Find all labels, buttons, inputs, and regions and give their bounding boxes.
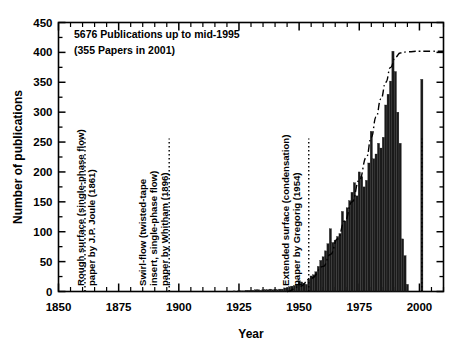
bar [281,289,283,291]
bar [250,290,252,291]
bar [382,137,384,291]
x-tick-label: 1925 [226,301,252,313]
y-tick-label: 50 [40,256,53,268]
bar [329,229,331,292]
bar [387,94,389,291]
bar [365,180,367,291]
y-tick-label: 300 [33,106,52,118]
y-tick-label: 0 [46,286,52,298]
x-tick-label: 1875 [106,301,132,313]
bar [272,290,274,292]
annotation-total-publications: 5676 Publications up to mid-1995 [74,28,240,40]
marker-label-gregorig-line1: Extended surface (condensation) [280,135,291,286]
x-tick-label: 1850 [46,301,72,313]
publications-per-year-chart: 050100150200250300350400450 185018751900… [0,0,459,347]
bar [264,290,266,292]
bar [274,289,276,291]
y-tick-label: 250 [33,136,52,148]
y-tick-label: 350 [33,76,52,88]
bar [353,183,355,292]
y-tick-label: 100 [33,226,52,238]
bar [401,239,403,292]
bar [269,289,271,291]
bar [399,143,401,291]
bar [276,290,278,292]
bar [375,154,377,291]
bar [404,256,406,292]
bar [341,211,343,291]
y-axis-title: Number of publications [11,90,25,224]
bar [351,192,353,291]
x-tick-label: 1900 [166,301,192,313]
y-tick-label: 400 [33,46,52,58]
x-axis-title: Year [238,327,264,341]
chart-canvas: 050100150200250300350400450 185018751900… [0,0,459,347]
bar [358,172,360,292]
bar [255,290,257,292]
bar [385,105,387,292]
bar [368,163,370,292]
bar [233,291,235,292]
marker-label-whitham-line2: insert, single-phase flow) [148,171,159,286]
bar [284,288,286,292]
bar [262,290,264,292]
bar [332,242,334,291]
bar [363,187,365,292]
bar [240,291,242,292]
bar [247,290,249,291]
bar [260,290,262,291]
bar [337,237,339,292]
y-tick-label: 450 [33,17,52,29]
marker-label-gregorig-line2: paper by Gregorig (1954) [291,172,302,286]
bar [339,234,341,292]
bar [380,148,382,291]
bar [267,290,269,292]
bar [361,177,363,292]
bar [377,143,379,291]
bar [238,290,240,291]
bar [322,257,324,292]
bar [308,280,310,292]
bar [349,201,351,292]
marker-label-joule-line1: Rough surface (single-phase flow) [75,129,86,286]
y-tick-label: 200 [33,166,52,178]
bar [392,51,394,291]
x-tick-label: 2000 [407,301,433,313]
bar [279,289,281,291]
y-tick-label: 150 [33,196,52,208]
bar [346,208,348,292]
bar [370,131,372,291]
bar [389,81,391,291]
annotation-papers-2001: (355 Papers in 2001) [74,44,175,56]
bar [243,291,245,292]
bar [320,260,322,291]
bar [397,112,399,291]
x-tick-label: 1950 [286,301,312,313]
bar [344,221,346,292]
bar [327,244,329,292]
bar [356,196,358,292]
bar [252,290,254,291]
marker-label-whitham-line1: Swirl-flow (twisted-tape [137,179,148,286]
x-tick-label: 1975 [346,301,372,313]
bar [245,290,247,291]
bar [305,284,307,291]
bar [421,79,423,291]
marker-label-whitham-line3: paper by Whitham (1896) [159,172,170,286]
bar [394,72,396,292]
bar [373,159,375,292]
bar [324,251,326,292]
bar [257,290,259,292]
bar [406,284,408,291]
marker-label-joule-line2: paper by J.P. Joule (1861) [86,169,97,286]
